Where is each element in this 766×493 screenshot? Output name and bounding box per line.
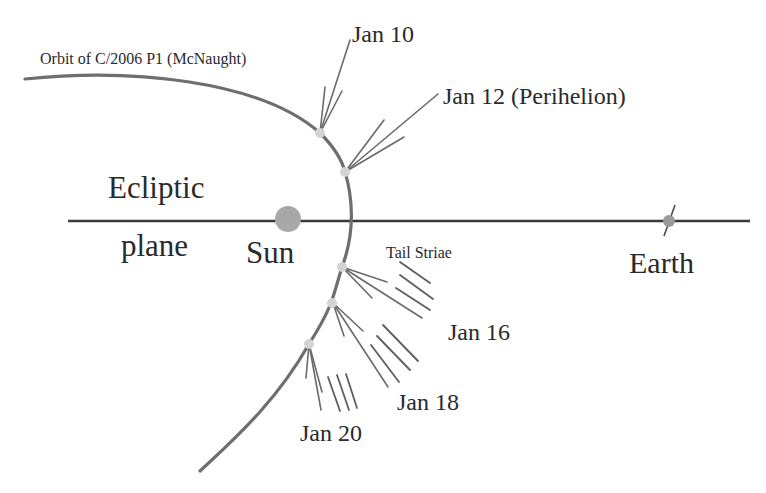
- date-label-jan12: Jan 12 (Perihelion): [443, 83, 626, 109]
- comet-position-jan16: [337, 262, 433, 318]
- date-label-jan16: Jan 16: [448, 319, 510, 345]
- comet-position-jan18: [327, 298, 418, 387]
- comet-position-jan20: [304, 339, 357, 411]
- ecliptic-label-line1: Ecliptic: [108, 170, 204, 205]
- comet-orbit-diagram: Orbit of C/2006 P1 (McNaught) Jan 10 Jan…: [0, 0, 766, 493]
- date-label-jan20: Jan 20: [300, 420, 362, 446]
- orbit-label: Orbit of C/2006 P1 (McNaught): [40, 50, 246, 68]
- earth-icon: [663, 215, 675, 227]
- date-label-jan10: Jan 10: [352, 21, 414, 47]
- ecliptic-label-line2: plane: [121, 228, 188, 263]
- date-label-jan18: Jan 18: [397, 389, 459, 415]
- sun-icon: [275, 206, 301, 232]
- tail-striae-label: Tail Striae: [386, 244, 452, 261]
- comet-position-jan10: [315, 40, 350, 138]
- comet-orbit-path: [25, 75, 351, 471]
- comet-position-jan12: [340, 94, 438, 177]
- earth-label: Earth: [629, 246, 694, 279]
- sun-label: Sun: [246, 235, 295, 270]
